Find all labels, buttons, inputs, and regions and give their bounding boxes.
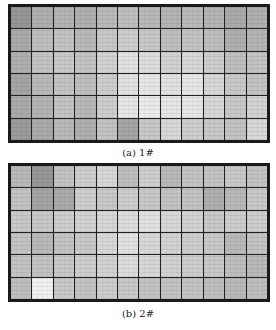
solar-cell [225, 166, 245, 187]
solar-cell [182, 29, 202, 50]
solar-cell [75, 29, 95, 50]
solar-cell [139, 74, 159, 95]
solar-cell [182, 96, 202, 117]
solar-cell [182, 52, 202, 73]
panel-a-image [8, 4, 270, 143]
solar-cell [118, 166, 138, 187]
solar-cell [118, 233, 138, 254]
solar-cell [247, 188, 267, 209]
solar-cell [54, 96, 74, 117]
solar-cell [11, 278, 31, 299]
solar-cell [11, 96, 31, 117]
solar-cell [182, 119, 202, 140]
solar-cell [54, 52, 74, 73]
solar-cell [139, 7, 159, 28]
solar-cell [32, 52, 52, 73]
solar-cell [97, 166, 117, 187]
solar-cell [247, 233, 267, 254]
solar-cell [182, 233, 202, 254]
solar-cell [75, 255, 95, 276]
solar-cell [11, 119, 31, 140]
solar-cell [161, 233, 181, 254]
solar-cell [225, 278, 245, 299]
solar-cell [32, 7, 52, 28]
solar-cell [75, 96, 95, 117]
solar-cell [139, 52, 159, 73]
solar-cell [11, 74, 31, 95]
solar-cell [182, 255, 202, 276]
solar-cell [97, 7, 117, 28]
solar-cell [32, 119, 52, 140]
solar-cell [225, 255, 245, 276]
solar-cell [11, 188, 31, 209]
solar-cell [139, 278, 159, 299]
solar-cell [161, 7, 181, 28]
solar-cell [75, 74, 95, 95]
solar-cell [225, 29, 245, 50]
solar-cell [118, 96, 138, 117]
solar-cell [139, 211, 159, 232]
solar-cell [11, 255, 31, 276]
cell-grid-a [11, 7, 267, 140]
solar-cell [75, 188, 95, 209]
solar-cell [118, 255, 138, 276]
solar-cell [11, 166, 31, 187]
solar-cell [204, 29, 224, 50]
solar-cell [161, 211, 181, 232]
solar-cell [32, 278, 52, 299]
panel-b-image [8, 163, 270, 302]
solar-cell [161, 188, 181, 209]
solar-cell [54, 119, 74, 140]
solar-cell [75, 233, 95, 254]
solar-cell [204, 52, 224, 73]
solar-cell [182, 278, 202, 299]
solar-cell [97, 119, 117, 140]
solar-cell [54, 166, 74, 187]
solar-cell [204, 255, 224, 276]
solar-cell [225, 188, 245, 209]
solar-cell [32, 74, 52, 95]
solar-cell [11, 233, 31, 254]
solar-cell [11, 7, 31, 28]
solar-cell [75, 52, 95, 73]
solar-cell [247, 52, 267, 73]
solar-cell [32, 211, 52, 232]
solar-cell [247, 29, 267, 50]
solar-cell [97, 74, 117, 95]
solar-cell [247, 211, 267, 232]
solar-cell [182, 74, 202, 95]
solar-cell [225, 74, 245, 95]
solar-cell [182, 7, 202, 28]
solar-cell [204, 74, 224, 95]
solar-cell [118, 52, 138, 73]
solar-cell [54, 188, 74, 209]
solar-cell [118, 29, 138, 50]
solar-cell [97, 96, 117, 117]
solar-cell [54, 278, 74, 299]
solar-cell [11, 211, 31, 232]
solar-cell [204, 188, 224, 209]
solar-cell [161, 166, 181, 187]
cell-grid-b [11, 166, 267, 299]
solar-cell [97, 52, 117, 73]
solar-cell [247, 278, 267, 299]
solar-cell [182, 211, 202, 232]
solar-cell [139, 188, 159, 209]
solar-cell [97, 233, 117, 254]
solar-cell [54, 74, 74, 95]
solar-cell [32, 188, 52, 209]
solar-cell [139, 233, 159, 254]
solar-cell [54, 29, 74, 50]
solar-cell [204, 233, 224, 254]
solar-cell [97, 278, 117, 299]
solar-cell [54, 233, 74, 254]
solar-cell [247, 74, 267, 95]
solar-cell [32, 255, 52, 276]
solar-cell [139, 29, 159, 50]
solar-cell [225, 52, 245, 73]
solar-cell [75, 211, 95, 232]
solar-cell [32, 233, 52, 254]
solar-cell [161, 119, 181, 140]
solar-cell [75, 7, 95, 28]
solar-cell [225, 7, 245, 28]
